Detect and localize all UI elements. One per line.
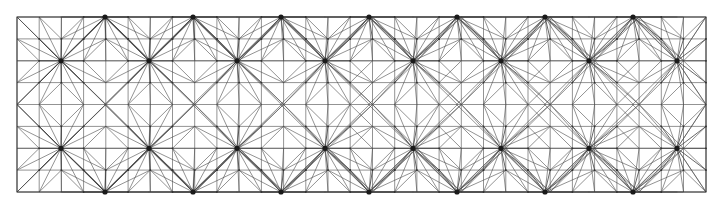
mesh-node	[127, 169, 129, 171]
mesh-node	[327, 169, 329, 171]
hub-node	[410, 146, 415, 151]
mesh-node	[305, 169, 307, 171]
mesh-node	[305, 191, 307, 193]
mesh-node	[683, 169, 685, 171]
mesh-node	[327, 126, 329, 128]
mesh-node	[105, 38, 107, 40]
mesh-node	[261, 169, 263, 171]
mesh-node	[594, 82, 596, 84]
mesh-node	[305, 16, 307, 18]
mesh-node	[394, 60, 396, 62]
mesh-node	[216, 191, 218, 193]
mesh-node	[261, 191, 263, 193]
mesh-canvas	[0, 0, 722, 209]
mesh-node	[505, 126, 507, 128]
mesh-node	[660, 60, 662, 62]
mesh-node	[38, 126, 40, 128]
mesh-node	[660, 191, 662, 193]
mesh-node	[394, 126, 396, 128]
mesh-node	[283, 38, 285, 40]
mesh-node	[438, 169, 440, 171]
mesh-node	[549, 38, 551, 40]
mesh-node	[149, 126, 151, 128]
mesh-node	[83, 191, 85, 193]
mesh-node	[349, 191, 351, 193]
mesh-node	[616, 169, 618, 171]
mesh-node	[416, 126, 418, 128]
boundary-hub-node	[630, 14, 635, 19]
mesh-node	[238, 82, 240, 84]
mesh-node	[38, 38, 40, 40]
mesh-node	[483, 147, 485, 149]
hub-node	[146, 146, 151, 151]
mesh-node	[705, 169, 707, 171]
mesh-node	[149, 82, 151, 84]
mesh-node	[638, 38, 640, 40]
mesh-node	[172, 147, 174, 149]
mesh-node	[705, 60, 707, 62]
mesh-node	[616, 82, 618, 84]
mesh-node	[483, 38, 485, 40]
mesh-node	[61, 82, 63, 84]
mesh-node	[394, 38, 396, 40]
mesh-node	[572, 38, 574, 40]
mesh-node	[261, 16, 263, 18]
mesh-node	[372, 38, 374, 40]
hub-node	[586, 58, 591, 63]
mesh-node	[305, 60, 307, 62]
mesh-node	[438, 126, 440, 128]
mesh-node	[349, 169, 351, 171]
mesh-node	[527, 169, 529, 171]
mesh-node	[683, 126, 685, 128]
mesh-node	[83, 169, 85, 171]
mesh-node	[194, 38, 196, 40]
mesh-node	[349, 16, 351, 18]
mesh-node	[172, 60, 174, 62]
mesh-node	[61, 38, 63, 40]
boundary-hub-node	[190, 14, 195, 19]
boundary-hub-node	[454, 14, 459, 19]
mesh-node	[261, 126, 263, 128]
boundary-hub-node	[278, 189, 283, 194]
mesh-node	[483, 16, 485, 18]
mesh-node	[705, 38, 707, 40]
mesh-node	[172, 191, 174, 193]
mesh-node	[616, 147, 618, 149]
mesh-node	[38, 147, 40, 149]
mesh-node	[216, 147, 218, 149]
mesh-node	[394, 147, 396, 149]
mesh-node	[438, 38, 440, 40]
mesh-node	[438, 60, 440, 62]
mesh-node	[638, 169, 640, 171]
mesh-node	[394, 191, 396, 193]
mesh-node	[38, 60, 40, 62]
mesh-node	[61, 126, 63, 128]
mesh-node	[238, 38, 240, 40]
hub-node	[498, 58, 503, 63]
mesh-node	[483, 82, 485, 84]
mesh-node	[305, 82, 307, 84]
boundary-hub-node	[366, 189, 371, 194]
mesh-node	[616, 38, 618, 40]
hub-node	[674, 146, 679, 151]
mesh-node	[416, 169, 418, 171]
mesh-node	[527, 60, 529, 62]
mesh-node	[283, 169, 285, 171]
boundary-hub-node	[190, 189, 195, 194]
hub-node	[234, 58, 239, 63]
mesh-node	[216, 16, 218, 18]
mesh-node	[594, 38, 596, 40]
mesh-node	[216, 126, 218, 128]
mesh-node	[572, 169, 574, 171]
mesh-node	[238, 126, 240, 128]
mesh-node	[572, 126, 574, 128]
mesh-node	[261, 147, 263, 149]
mesh-node	[127, 82, 129, 84]
mesh-node	[394, 169, 396, 171]
mesh-node	[660, 169, 662, 171]
mesh-node	[705, 126, 707, 128]
boundary-hub-node	[102, 189, 107, 194]
mesh-node	[594, 126, 596, 128]
mesh-node	[505, 169, 507, 171]
mesh-node	[127, 16, 129, 18]
